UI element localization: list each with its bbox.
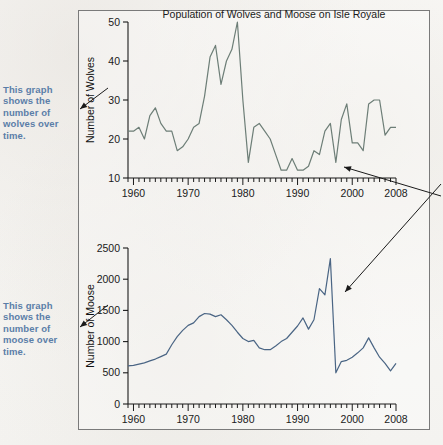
y-tick-label: 0 [114, 398, 120, 410]
figure-svg: Population of Wolves and Moose on Isle R… [0, 0, 443, 445]
chart-title: Population of Wolves and Moose on Isle R… [163, 8, 386, 20]
y-tick-label: 1500 [97, 304, 121, 316]
y-tick-label: 30 [108, 94, 120, 106]
x-tick-label: 1990 [286, 187, 310, 199]
x-tick-label: 1980 [231, 187, 255, 199]
x-tick-label: 2008 [384, 413, 408, 425]
annotation-arrow-wolves-right-head [344, 166, 352, 172]
y-tick-label: 40 [108, 55, 120, 67]
x-tick-label: 1970 [176, 413, 200, 425]
x-tick-label: 2000 [341, 187, 365, 199]
y-tick-label: 2000 [97, 273, 121, 285]
y-tick-label: 500 [102, 366, 120, 378]
y-tick-label: 50 [108, 16, 120, 28]
x-tick-label: 1990 [286, 413, 310, 425]
x-tick-label: 1960 [122, 187, 146, 199]
x-tick-label: 2000 [341, 413, 365, 425]
data-line-wolves [128, 22, 396, 170]
annotation-arrow-moose-right-shaft [345, 184, 441, 292]
x-tick-label: 1980 [231, 413, 255, 425]
x-tick-label: 1970 [176, 187, 200, 199]
y-tick-label: 1000 [97, 335, 121, 347]
x-tick-label: 2008 [384, 187, 408, 199]
x-tick-label: 1960 [122, 413, 146, 425]
annotation-arrow-moose-right [345, 184, 441, 292]
y-axis-title: Number of Wolves [84, 57, 96, 143]
chart-wolves: Population of Wolves and Moose on Isle R… [84, 8, 408, 199]
y-tick-label: 20 [108, 133, 120, 145]
data-line-moose [128, 259, 396, 373]
chart-moose: 0500100015002000250019601970198019902000… [84, 242, 408, 425]
y-tick-label: 10 [108, 172, 120, 184]
y-tick-label: 2500 [97, 242, 121, 254]
y-axis-title: Number of Moose [84, 284, 96, 368]
